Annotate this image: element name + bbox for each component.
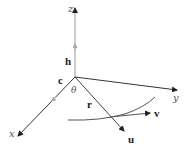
y-axis (75, 77, 177, 90)
v-vector (110, 113, 150, 117)
c-label: c (58, 74, 63, 86)
theta-label: θ (71, 85, 77, 95)
r-vector (75, 77, 124, 131)
u-label: u (128, 133, 134, 145)
x-axis-label: x (9, 128, 15, 139)
h-label: h (65, 55, 71, 67)
x-axis (18, 77, 75, 136)
r-label: r (87, 98, 92, 110)
z-axis-label: z (67, 3, 74, 14)
y-axis-label: y (172, 92, 179, 103)
c-midpoint-arrow-icon (52, 97, 56, 101)
v-label: v (154, 107, 160, 119)
vector-diagram: z y x h c r u v θ (0, 0, 184, 155)
